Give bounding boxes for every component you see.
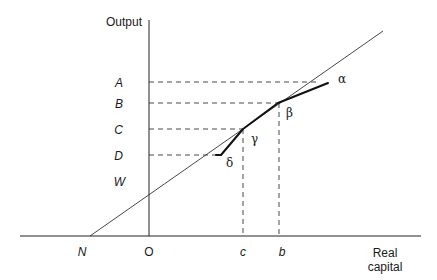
x-label-O: O bbox=[144, 245, 153, 259]
y-label-W: W bbox=[114, 175, 127, 189]
y-label-C: C bbox=[114, 123, 123, 137]
point-alpha: α bbox=[338, 72, 346, 86]
x-axis-label-line1: Real bbox=[373, 246, 398, 260]
point-delta: δ bbox=[226, 156, 233, 170]
production-curve bbox=[216, 83, 328, 155]
point-gamma: γ bbox=[251, 132, 258, 146]
x-label-N: N bbox=[78, 245, 87, 259]
production-diagram: Output Real capital A B C D W N O c b α … bbox=[0, 0, 437, 280]
x-label-b: b bbox=[279, 245, 286, 259]
y-label-D: D bbox=[114, 149, 123, 163]
ray-from-N bbox=[90, 31, 383, 236]
y-label-B: B bbox=[115, 97, 123, 111]
point-beta: β bbox=[286, 106, 293, 120]
y-axis-label: Output bbox=[106, 15, 143, 29]
x-axis-label-line2: capital bbox=[368, 260, 403, 274]
y-label-A: A bbox=[114, 76, 123, 90]
x-label-c: c bbox=[240, 245, 246, 259]
